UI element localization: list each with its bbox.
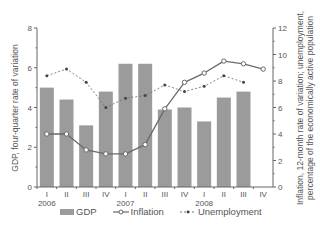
gdp-bar [158,109,172,187]
inflation-point [163,107,167,111]
x-tick-label: III [240,190,247,199]
x-tick-label: II [222,190,226,199]
inflation-point [182,80,186,84]
legend: GDP Inflation Unemployment [60,206,278,217]
unemployment-point [163,83,166,86]
unemployment-point [85,81,88,84]
x-tick-label: III [83,190,90,199]
inflation-point [84,148,88,152]
inflation-point [64,132,68,136]
y2-tick-label: 6 [278,104,283,113]
unemployment-point [104,106,107,109]
unemployment-point [124,97,127,100]
inflation-line-icon [113,208,129,216]
unemployment-point [242,81,245,84]
y-tick-label: 0 [28,183,33,192]
inflation-point [104,152,108,156]
unemployment-point [222,74,225,77]
gdp-bars [40,64,251,187]
y2-tick-label: 2 [278,157,283,166]
y-tick-label: 6 [28,64,33,73]
y2-tick-label: 10 [278,51,287,60]
x-tick-label: II [143,190,147,199]
x-tick-label: IV [259,190,267,199]
gdp-swatch-icon [60,209,74,215]
unemployment-point [183,90,186,93]
unemployment-point [144,94,147,97]
inflation-point [123,152,127,156]
gdp-bar [197,121,211,187]
gdp-bar [99,92,113,187]
gdp-bar [217,98,231,187]
inflation-point [222,59,226,63]
y2-axis-title-line2: percentage of the economically active po… [305,16,315,200]
unemployment-point [45,74,48,77]
inflation-point [45,132,49,136]
x-tick-label: I [124,190,126,199]
y2-tick-label: 0 [278,183,283,192]
y2-tick-label: 12 [278,24,287,33]
y2-tick-label: 4 [278,130,283,139]
y-axis-title: GDP, four-quarter rate of variation [10,44,20,172]
x-tick-label: I [203,190,205,199]
gdp-bar [60,100,74,187]
y-tick-label: 4 [28,104,33,113]
gdp-bar [138,64,152,187]
x-tick-label: II [64,190,68,199]
inflation-point [202,71,206,75]
gdp-bar [237,92,251,187]
combo-chart: 02468024681012IIIIIIIVIIIIIIIVIIIIIIIV20… [0,0,325,233]
y-tick-label: 2 [28,143,33,152]
x-tick-label: IV [102,190,110,199]
y-tick-label: 8 [28,24,33,33]
legend-item-unemployment: Unemployment [180,206,262,217]
gdp-bar [40,88,54,187]
legend-label-unemployment: Unemployment [198,206,262,217]
legend-label-gdp: GDP [76,206,97,217]
legend-item-inflation: Inflation [113,206,164,217]
inflation-line [45,59,266,156]
unemployment-line-icon [180,208,196,216]
gdp-bar [79,125,93,187]
inflation-point [241,62,245,66]
inflation-point [261,67,265,71]
inflation-point [143,142,147,146]
unemployment-point [65,68,68,71]
y2-tick-label: 8 [278,77,283,86]
x-tick-label: III [161,190,168,199]
gdp-bar [119,64,133,187]
y2-axis-title-line1: Inflation, 12-month rate of variation; u… [295,11,305,205]
x-tick-label: I [46,190,48,199]
year-label: 2006 [38,199,56,208]
x-tick-label: IV [181,190,189,199]
legend-item-gdp: GDP [60,206,97,217]
unemployment-point [203,85,206,88]
gdp-bar [178,108,192,188]
legend-label-inflation: Inflation [131,206,164,217]
